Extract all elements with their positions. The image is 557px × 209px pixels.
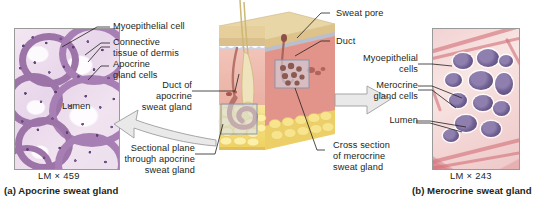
label-lumen-b: Lumen xyxy=(376,115,418,126)
label-myoepithelial-cell-a: Myoepithelial cell xyxy=(113,21,185,32)
label-sectional-plane: Sectional plane through apocrine sweat g… xyxy=(117,143,195,177)
panel-a-magnification: LM × 459 xyxy=(38,170,80,181)
label-duct: Duct xyxy=(336,36,355,47)
sweat-glands-figure: Lumen Myoepithelial cell Connective tiss… xyxy=(0,0,557,209)
label-connective-tissue: Connective tissue of dermis xyxy=(113,37,179,59)
panel-a-caption: (a) Apocrine sweat gland xyxy=(4,185,118,196)
merocrine-acinus xyxy=(499,55,513,67)
panel-b-magnification: LM × 243 xyxy=(450,170,492,181)
merocrine-acinus xyxy=(493,101,510,116)
arrow-to-apocrine-micrograph xyxy=(112,106,220,148)
label-myoepithelial-cells-b: Myoepithelial cells xyxy=(360,53,418,75)
label-merocrine-gland-cells: Merocrine gland cells xyxy=(358,80,418,102)
label-sweat-pore: Sweat pore xyxy=(336,8,383,19)
merocrine-acinus xyxy=(495,73,513,95)
panel-b-caption: (b) Merocrine sweat gland xyxy=(412,185,532,196)
label-apocrine-gland-cells: Apocrine gland cells xyxy=(113,59,158,81)
